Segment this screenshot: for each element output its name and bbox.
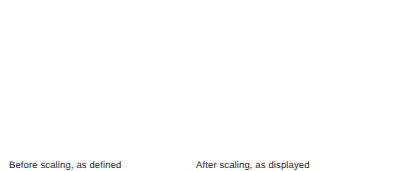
caption-before-scaling: Before scaling, as defined in frame buff… <box>9 137 121 171</box>
caption-after-scaling: After scaling, as displayed <box>196 137 310 171</box>
caption-before-line-1: Before scaling, as defined <box>9 160 121 171</box>
caption-after-line-1: After scaling, as displayed <box>196 160 310 171</box>
figure-root: Before scaling, as defined in frame buff… <box>0 0 394 171</box>
